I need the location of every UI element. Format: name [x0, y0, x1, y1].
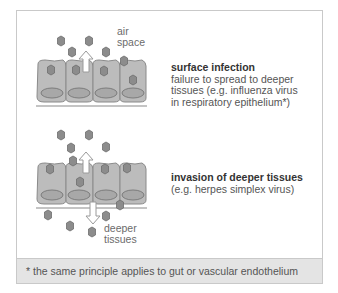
air-space-label: air space [117, 26, 145, 48]
surface-infection-line3: in respiratory epithelium*) [171, 97, 298, 109]
surface-infection-title: surface infection [171, 62, 298, 74]
virus-spread-diagram [0, 0, 338, 293]
invasion-line1: (e.g. herpes simplex virus) [171, 184, 303, 196]
surface-infection-description: surface infection failure to spread to d… [171, 62, 298, 108]
invasion-title: invasion of deeper tissues [171, 172, 303, 184]
footnote-bar: * the same principle applies to gut or v… [16, 258, 323, 284]
footnote-text: * the same principle applies to gut or v… [26, 265, 298, 277]
invasion-description: invasion of deeper tissues (e.g. herpes … [171, 172, 303, 195]
deeper-tissues-label-line2: tissues [104, 234, 137, 245]
air-space-label-line2: space [117, 37, 145, 48]
down-arrow-icon [86, 202, 100, 224]
invasion-epithelium [36, 130, 147, 237]
surface-infection-line2: tissues (e.g. influenza virus [171, 85, 298, 97]
deeper-tissues-label: deeper tissues [104, 223, 137, 245]
